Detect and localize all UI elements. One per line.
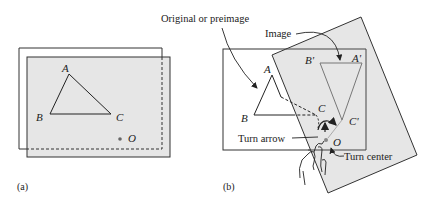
rotation-center-dot	[324, 138, 328, 142]
tracing-paper	[27, 57, 170, 157]
annotation-original: Original or preimage	[161, 13, 249, 24]
vertex-label-b: B	[241, 112, 248, 124]
vertex-label-a: A	[263, 63, 271, 75]
caption-a: (a)	[17, 181, 28, 193]
rotation-figure: A B C O (a) A B C B' A' C' O	[0, 0, 437, 204]
vertex-label-c: C	[318, 102, 326, 114]
center-label-o: O	[128, 132, 136, 144]
image-vertex-label-c: C'	[349, 115, 359, 127]
center-label-o: O	[333, 136, 341, 148]
vertex-label-c: C	[116, 111, 124, 123]
panel-b: A B C B' A' C' O Original or preimage Im…	[161, 13, 417, 193]
annotation-turn-center: Turn center	[344, 151, 393, 162]
rotation-center-dot	[118, 137, 122, 141]
vertex-label-a: A	[61, 62, 69, 74]
caption-b: (b)	[223, 181, 235, 193]
image-vertex-label-b: B'	[305, 54, 315, 66]
panel-a: A B C O (a)	[17, 48, 170, 193]
vertex-label-b: B	[36, 111, 43, 123]
image-vertex-label-a: A'	[351, 52, 362, 64]
annotation-turn-arrow: Turn arrow	[238, 133, 286, 144]
rotated-tracing-paper	[272, 17, 417, 193]
annotation-image: Image	[265, 28, 292, 39]
